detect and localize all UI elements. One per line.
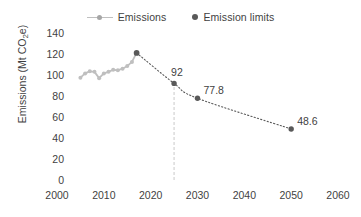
data-value-label: 77.8	[204, 84, 224, 96]
data-point-labels: 9277.848.6	[0, 0, 361, 217]
data-value-label: 48.6	[297, 115, 317, 127]
data-value-label: 92	[171, 66, 183, 78]
emissions-chart: Emissions Emission limits Emissions (Mt …	[0, 0, 361, 217]
